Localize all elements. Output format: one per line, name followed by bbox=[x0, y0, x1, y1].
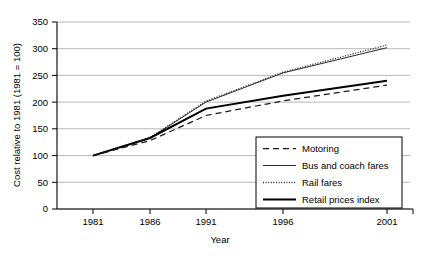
x-axis-title: Year bbox=[210, 234, 229, 245]
line-chart: 350 300 250 200 150 100 50 0 1981 1986 1… bbox=[0, 0, 429, 260]
y-tick-label-50: 50 bbox=[37, 177, 48, 188]
x-tick-label-1991: 1991 bbox=[195, 216, 216, 227]
x-tick-label-1981: 1981 bbox=[82, 216, 103, 227]
legend-label-rail-fares: Rail fares bbox=[302, 177, 342, 188]
x-axis-ticks bbox=[93, 209, 413, 214]
x-axis-tick-labels: 1981 1986 1991 1996 2001 bbox=[82, 216, 397, 227]
y-axis-ticks bbox=[52, 22, 57, 209]
y-tick-label-250: 250 bbox=[32, 70, 48, 81]
legend-label-motoring: Motoring bbox=[302, 143, 339, 154]
legend-label-bus-and-coach-fares: Bus and coach fares bbox=[302, 160, 389, 171]
x-tick-label-1996: 1996 bbox=[272, 216, 293, 227]
y-tick-label-150: 150 bbox=[32, 123, 48, 134]
y-tick-label-200: 200 bbox=[32, 97, 48, 108]
y-axis-title: Cost relative to 1981 (1981 = 100) bbox=[11, 43, 22, 187]
legend: Motoring Bus and coach fares Rail fares … bbox=[256, 137, 402, 208]
legend-label-retail-prices-index: Retail prices index bbox=[302, 194, 380, 205]
y-tick-label-350: 350 bbox=[32, 16, 48, 27]
x-tick-label-2001: 2001 bbox=[376, 216, 397, 227]
y-tick-label-300: 300 bbox=[32, 43, 48, 54]
chart-svg: 350 300 250 200 150 100 50 0 1981 1986 1… bbox=[0, 0, 429, 260]
y-tick-label-100: 100 bbox=[32, 150, 48, 161]
x-tick-label-1986: 1986 bbox=[139, 216, 160, 227]
y-axis-tick-labels: 350 300 250 200 150 100 50 0 bbox=[32, 16, 48, 214]
y-tick-label-0: 0 bbox=[43, 203, 48, 214]
